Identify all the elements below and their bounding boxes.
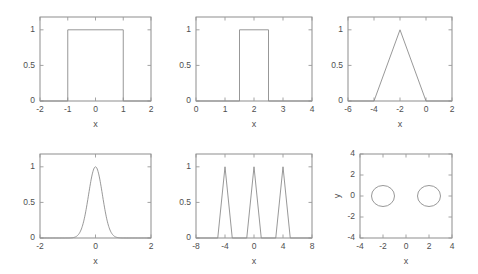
axis-frame <box>196 154 312 238</box>
x-tick-label: -1 <box>64 104 72 114</box>
y-tick-label: 1 <box>30 24 35 34</box>
data-circle <box>418 186 441 207</box>
x-axis-label: x <box>404 256 409 266</box>
y-tick-label: 0 <box>186 232 191 242</box>
y-tick-label: 1 <box>30 161 35 171</box>
data-circle <box>372 186 395 207</box>
x-axis-label: x <box>93 256 98 266</box>
y-tick-label: 1 <box>186 24 191 34</box>
y-axis-label: y <box>332 193 342 198</box>
y-tick-label: 0.5 <box>179 60 191 70</box>
x-tick-label: -2 <box>379 241 387 251</box>
axis-frame <box>360 154 452 238</box>
data-curve <box>196 167 312 238</box>
x-tick-label: 2 <box>149 104 154 114</box>
y-tick-label: 1 <box>338 24 343 34</box>
plot-panel: 0123400.51x <box>162 11 318 131</box>
x-axis-label: x <box>93 119 98 129</box>
x-tick-label: 1 <box>223 104 228 114</box>
y-tick-label: 0 <box>338 95 343 105</box>
x-tick-label: 0 <box>93 241 98 251</box>
x-tick-label: 0 <box>404 241 409 251</box>
x-tick-label: -2 <box>36 241 44 251</box>
y-tick-label: 0.5 <box>179 197 191 207</box>
x-tick-label: 2 <box>149 241 154 251</box>
x-tick-label: 0 <box>93 104 98 114</box>
x-axis-label: x <box>252 119 257 129</box>
y-tick-label: 0 <box>186 95 191 105</box>
x-tick-label: -6 <box>344 104 352 114</box>
x-tick-label: 0 <box>424 104 429 114</box>
plot-panel: -20200.51x <box>6 148 157 268</box>
y-tick-label: 4 <box>350 148 355 158</box>
y-tick-label: 0 <box>350 190 355 200</box>
y-tick-label: 0.5 <box>331 60 343 70</box>
data-curve <box>348 30 452 101</box>
x-tick-label: 3 <box>281 104 286 114</box>
x-tick-label: -2 <box>396 104 404 114</box>
y-tick-label: -2 <box>347 211 355 221</box>
x-tick-label: 2 <box>450 104 455 114</box>
plot-panel: -8-404800.51x <box>162 148 318 268</box>
plot-panel: -2-101200.51x <box>6 11 157 131</box>
x-tick-label: -8 <box>192 241 200 251</box>
x-tick-label: 8 <box>310 241 315 251</box>
x-tick-label: -4 <box>370 104 378 114</box>
data-curve <box>196 30 312 101</box>
x-tick-label: 0 <box>194 104 199 114</box>
y-tick-label: 1 <box>186 161 191 171</box>
plot-panel: -4-2024-4-2024xy <box>326 148 458 268</box>
x-tick-label: 4 <box>450 241 455 251</box>
x-tick-label: -2 <box>36 104 44 114</box>
x-tick-label: 1 <box>121 104 126 114</box>
y-tick-label: -4 <box>347 232 355 242</box>
data-curve <box>40 167 151 238</box>
y-tick-label: 0 <box>30 232 35 242</box>
x-tick-label: 4 <box>281 241 286 251</box>
x-tick-label: 2 <box>252 104 257 114</box>
y-tick-label: 0.5 <box>23 197 35 207</box>
x-axis-label: x <box>398 119 403 129</box>
x-tick-label: 0 <box>252 241 257 251</box>
x-tick-label: 2 <box>427 241 432 251</box>
figure-canvas: -2-101200.51x0123400.51x-6-4-20200.51x-2… <box>0 0 478 274</box>
x-tick-label: -4 <box>221 241 229 251</box>
y-tick-label: 0 <box>30 95 35 105</box>
x-tick-label: -4 <box>356 241 364 251</box>
y-tick-label: 2 <box>350 169 355 179</box>
plot-panel: -6-4-20200.51x <box>314 11 458 131</box>
y-tick-label: 0.5 <box>23 60 35 70</box>
data-curve <box>40 30 151 101</box>
x-axis-label: x <box>252 256 257 266</box>
